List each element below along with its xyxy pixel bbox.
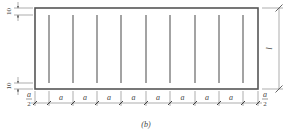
height-label: l	[264, 47, 274, 50]
svg-text:a: a	[263, 90, 267, 99]
spacing-label: a	[229, 93, 233, 102]
svg-text:2: 2	[27, 100, 31, 108]
bottom-cover-label: 10	[5, 82, 13, 90]
svg-text:2: 2	[263, 100, 267, 108]
spacing-label: a	[83, 93, 87, 102]
left-top-dimension	[14, 2, 33, 21]
figure-caption: (b)	[141, 120, 151, 129]
half-spacing-label-left: a 2	[26, 90, 32, 108]
spacing-label: a	[181, 93, 185, 102]
spacing-label: a	[205, 93, 209, 102]
svg-text:a: a	[27, 90, 31, 99]
spacing-label: a	[132, 93, 136, 102]
rebar-lines	[49, 15, 243, 83]
spacing-label: a	[107, 93, 111, 102]
top-cover-label: 10	[5, 8, 13, 16]
spacing-label: a	[59, 93, 63, 102]
rebar-layout-diagram: 10 10 l	[0, 0, 285, 132]
bottom-dimension-chain	[31, 91, 262, 106]
half-spacing-label-right: a 2	[262, 90, 268, 108]
spacing-label: a	[156, 93, 160, 102]
